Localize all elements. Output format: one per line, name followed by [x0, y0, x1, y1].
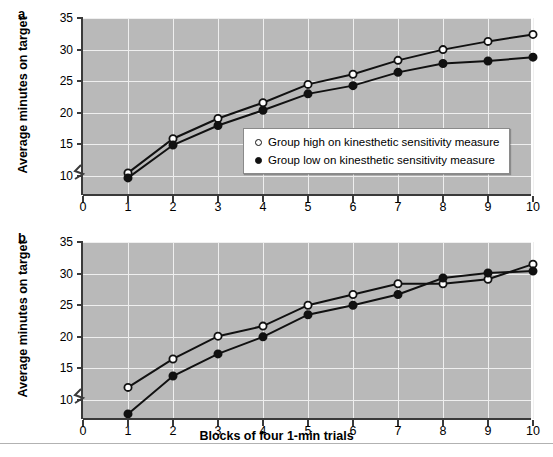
data-point-filled: [124, 410, 131, 417]
data-point-filled: [304, 90, 311, 97]
data-point-filled: [214, 122, 221, 129]
x-tick-label: 5: [296, 200, 320, 214]
y-tick-label: 15: [43, 137, 73, 151]
x-tick-label: 1: [116, 200, 140, 214]
filled-circle-icon: [252, 152, 264, 168]
x-tick-mark: [217, 196, 219, 202]
x-tick-mark: [172, 420, 174, 426]
data-point-filled: [169, 372, 176, 379]
x-tick-mark: [487, 196, 489, 202]
figure-container: a Average minutes on target 101520253035…: [0, 0, 553, 457]
x-tick-label: 8: [431, 200, 455, 214]
data-point-filled: [259, 333, 266, 340]
x-gridline: [533, 18, 534, 195]
x-tick-label: 4: [251, 200, 275, 214]
data-point-open: [529, 31, 536, 38]
x-tick-label: 10: [521, 200, 545, 214]
y-tick-label: 30: [43, 267, 73, 281]
data-point-open: [124, 384, 131, 391]
panel-b: b Average minutes on target 101520253035…: [0, 224, 553, 449]
data-point-open: [349, 71, 356, 78]
y-tick-label: 10: [43, 393, 73, 407]
x-tick-mark: [487, 420, 489, 426]
data-point-open: [259, 322, 266, 329]
y-tick-label: 35: [43, 235, 73, 249]
legend-row: Group high on kinesthetic sensitivity me…: [252, 134, 499, 150]
data-point-open: [349, 291, 356, 298]
data-point-filled: [169, 141, 176, 148]
x-tick-mark: [307, 196, 309, 202]
x-tick-label: 0: [71, 200, 95, 214]
legend-a: Group high on kinesthetic sensitivity me…: [243, 128, 510, 174]
x-tick-mark: [82, 196, 84, 202]
x-tick-label: 9: [476, 200, 500, 214]
data-point-filled: [529, 267, 536, 274]
data-point-open: [304, 302, 311, 309]
x-tick-label: 2: [161, 200, 185, 214]
x-tick-label: 3: [206, 200, 230, 214]
data-point-open: [259, 99, 266, 106]
y-tick-label: 35: [43, 11, 73, 25]
x-tick-mark: [442, 420, 444, 426]
y-tick-label: 10: [43, 169, 73, 183]
x-tick-mark: [217, 420, 219, 426]
x-tick-mark: [127, 196, 129, 202]
x-tick-mark: [532, 196, 534, 202]
data-point-open: [394, 280, 401, 287]
x-tick-label: 6: [341, 200, 365, 214]
legend-row: Group low on kinesthetic sensitivity mea…: [252, 152, 499, 168]
x-tick-mark: [352, 420, 354, 426]
data-point-open: [394, 57, 401, 64]
data-point-filled: [439, 60, 446, 67]
data-point-open: [169, 355, 176, 362]
data-point-filled: [259, 107, 266, 114]
y-tick-label: 25: [43, 74, 73, 88]
data-point-open: [484, 38, 491, 45]
plot-area-b: 101520253035012345678910: [81, 242, 531, 419]
data-point-filled: [529, 54, 536, 61]
legend-label: Group high on kinesthetic sensitivity me…: [268, 134, 499, 150]
series-line: [128, 271, 533, 414]
x-tick-mark: [532, 420, 534, 426]
y-tick-label: 15: [43, 361, 73, 375]
data-point-filled: [484, 57, 491, 64]
data-point-filled: [394, 69, 401, 76]
x-tick-mark: [82, 420, 84, 426]
data-point-filled: [214, 350, 221, 357]
y-tick-label: 20: [43, 106, 73, 120]
data-point-filled: [304, 311, 311, 318]
x-tick-mark: [352, 196, 354, 202]
x-tick-mark: [262, 196, 264, 202]
x-tick-mark: [442, 196, 444, 202]
y-tick-label: 30: [43, 43, 73, 57]
series-layer: [83, 242, 533, 419]
y-tick-label: 20: [43, 330, 73, 344]
data-point-filled: [439, 274, 446, 281]
x-tick-mark: [172, 196, 174, 202]
data-point-open: [439, 46, 446, 53]
x-axis-title: Blocks of four 1-min trials: [0, 429, 553, 443]
panel-a: a Average minutes on target 101520253035…: [0, 0, 553, 225]
legend-label: Group low on kinesthetic sensitivity mea…: [268, 152, 495, 168]
x-tick-mark: [262, 420, 264, 426]
x-tick-mark: [397, 196, 399, 202]
data-point-filled: [394, 291, 401, 298]
data-point-open: [214, 333, 221, 340]
open-circle-icon: [252, 134, 264, 150]
data-point-filled: [349, 82, 356, 89]
plot-area-wrapper-a: 101520253035012345678910: [0, 0, 553, 225]
x-tick-mark: [307, 420, 309, 426]
data-point-open: [304, 81, 311, 88]
y-tick-label: 25: [43, 298, 73, 312]
data-point-filled: [484, 269, 491, 276]
bottom-divider: [0, 443, 553, 444]
data-point-filled: [124, 174, 131, 181]
data-point-filled: [349, 302, 356, 309]
x-tick-label: 7: [386, 200, 410, 214]
plot-area-wrapper-b: 101520253035012345678910: [0, 224, 553, 449]
x-tick-mark: [397, 420, 399, 426]
x-tick-mark: [127, 420, 129, 426]
